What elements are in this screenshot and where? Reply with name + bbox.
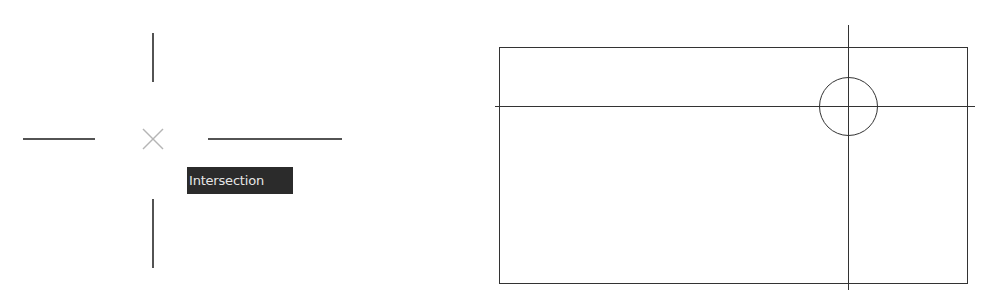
cad-drawing (495, 25, 975, 290)
rectangle-shape[interactable] (500, 48, 968, 284)
drawing-canvas[interactable] (0, 0, 986, 300)
intersection-snap-x-icon (143, 129, 163, 149)
snap-tooltip: Intersection (187, 167, 293, 194)
snap-tooltip-label: Intersection (189, 173, 264, 188)
crosshair-cursor (23, 33, 342, 268)
